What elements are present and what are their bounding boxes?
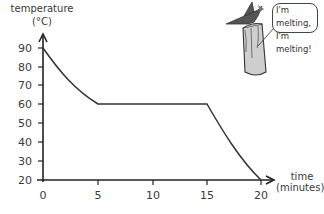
y-axis [39, 34, 47, 182]
x-axis [37, 176, 274, 184]
witch-hat [226, 6, 262, 24]
speech-line-1: I'm melting, [276, 4, 317, 30]
speech-bubble: I'm melting, I'm melting! [272, 3, 318, 33]
speech-line-2: I'm melting! [276, 30, 317, 56]
temperature-line [43, 48, 261, 180]
melting-candle-illustration [226, 2, 274, 75]
